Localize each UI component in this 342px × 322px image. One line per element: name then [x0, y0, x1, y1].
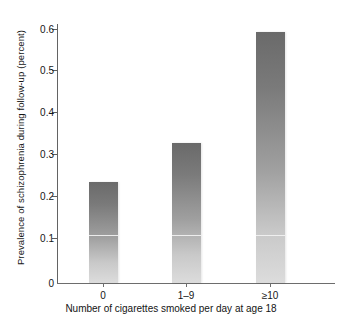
y-tick-label: 0.4	[40, 107, 54, 118]
y-tick-label: 0.6	[40, 24, 54, 35]
x-axis-line	[57, 283, 335, 284]
x-tick-mark-ge10	[270, 283, 271, 287]
x-tick-label-1-9: 1–9	[178, 290, 195, 301]
bar-1-9	[172, 143, 201, 283]
y-tick-label: 0.2	[40, 191, 54, 202]
x-axis-title: Number of cigarettes smoked per day at a…	[0, 303, 342, 314]
y-tick-label: 0	[48, 278, 54, 289]
y-axis-title: Prevalence of schizophrenia during follo…	[15, 12, 26, 284]
y-tick-label: 0.5	[40, 65, 54, 76]
bar-ge10	[256, 32, 285, 283]
bar-0	[89, 182, 118, 283]
x-tick-label-0: 0	[100, 290, 106, 301]
x-tick-mark-0	[103, 283, 104, 287]
bar-inner-line-1-9	[172, 235, 201, 236]
plot-area: 0.6 0.5 0.4 0.3 0.2 0.1 0	[57, 24, 335, 283]
x-tick-label-ge10: ≥10	[262, 290, 279, 301]
y-tick-label: 0.1	[40, 233, 54, 244]
bar-chart-figure: Prevalence of schizophrenia during follo…	[0, 0, 342, 322]
bar-inner-line-ge10	[256, 235, 285, 236]
x-tick-mark-1-9	[186, 283, 187, 287]
bar-inner-line-0	[89, 235, 118, 236]
y-tick-label: 0.3	[40, 149, 54, 160]
y-axis-line	[57, 24, 58, 283]
